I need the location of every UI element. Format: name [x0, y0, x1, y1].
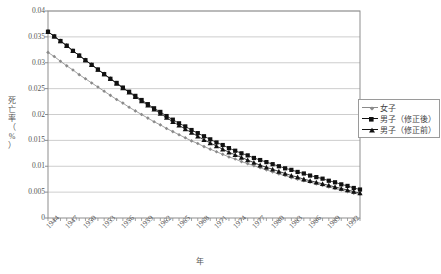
x-tick-label: 1968 [194, 213, 211, 230]
x-tick-label: 1953 [100, 213, 117, 230]
x-tick-label: 1986 [306, 213, 323, 230]
legend-item-2: 男子（修正後） [361, 113, 436, 124]
legend-symbol [370, 106, 374, 110]
legend-marker-icon [361, 102, 379, 113]
x-tick-label: 1965 [175, 213, 192, 230]
x-tick-label: 1944 [44, 213, 61, 230]
x-tick-label: 1980 [269, 213, 286, 230]
y-axis-title-char: 率 [4, 114, 20, 123]
x-tick-label: 1992 [344, 213, 361, 230]
x-tick-label: 1989 [325, 213, 342, 230]
x-tick-label: 1959 [138, 213, 155, 230]
x-axis-title: 年 [0, 255, 400, 266]
mortality-rate-line-chart: 0.040.0350.030.0250.020.0150.010.0050 19… [0, 0, 441, 274]
legend-item-label: 男子（修正前） [379, 124, 436, 135]
legend-marker-icon [361, 113, 379, 124]
legend-marker-icon [361, 124, 379, 135]
x-tick-label: 1974 [231, 213, 248, 230]
x-tick-label: 1962 [156, 213, 173, 230]
legend-item-label: 女子 [379, 102, 396, 113]
legend-item-label: 男子（修正後） [379, 113, 436, 124]
y-axis-title-char: 死 [4, 96, 20, 105]
x-tick-label: 1983 [287, 213, 304, 230]
y-axis-title: 死亡率（%） [4, 96, 20, 150]
x-tick-label: 1956 [119, 213, 136, 230]
x-tick-label: 1947 [63, 213, 80, 230]
y-axis-title-char: ） [4, 141, 20, 150]
legend-symbol [369, 128, 375, 133]
chart-legend: 女子男子（修正後）男子（修正前） [358, 99, 440, 138]
x-tick-label: 1950 [81, 213, 98, 230]
legend-symbol [369, 117, 374, 122]
y-axis-title-char: （ [4, 123, 20, 132]
legend-item-1: 女子 [361, 102, 436, 113]
x-tick-label: 1977 [250, 213, 267, 230]
legend-item-3: 男子（修正前） [361, 124, 436, 135]
y-axis-title-char: 亡 [4, 105, 20, 114]
x-tick-label: 1971 [212, 213, 229, 230]
y-axis-title-char: % [4, 132, 20, 141]
